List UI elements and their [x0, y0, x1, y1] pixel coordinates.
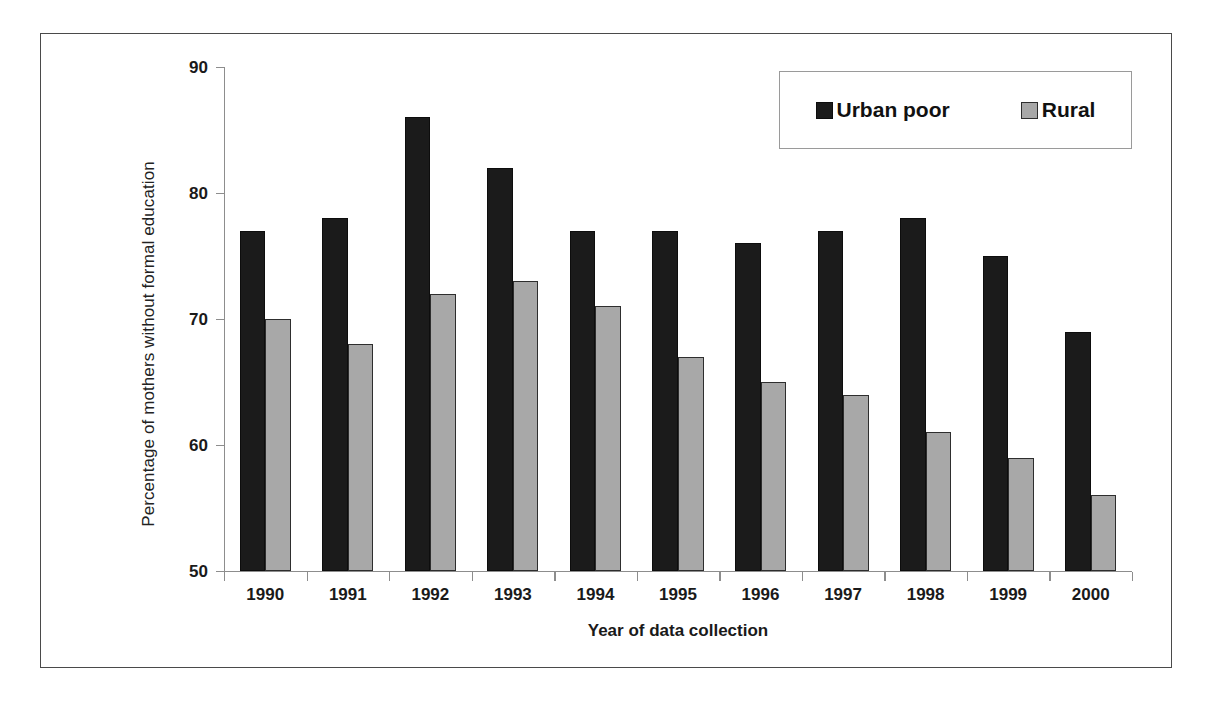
x-axis-tick-label-1991: 1991	[307, 585, 390, 605]
x-axis-tick-label-1990: 1990	[224, 585, 307, 605]
legend-entry-urban-poor[interactable]: Urban poor	[816, 98, 950, 122]
x-axis-tick-label-1999: 1999	[967, 585, 1050, 605]
bar-rural-1995	[678, 357, 704, 571]
bar-rural-1992	[430, 294, 456, 571]
x-axis-tick-mark	[1132, 572, 1133, 581]
bar-rural-1999	[1008, 458, 1034, 571]
x-axis-tick-label-1995: 1995	[637, 585, 720, 605]
bar-rural-2000	[1091, 495, 1117, 571]
x-axis-tick-label-1997: 1997	[802, 585, 885, 605]
bar-rural-1994	[595, 306, 621, 571]
x-axis-tick-label-2000: 2000	[1049, 585, 1132, 605]
bar-rural-1991	[348, 344, 374, 571]
y-axis-tick-label: 50	[148, 562, 208, 582]
x-axis-tick-mark	[307, 572, 308, 581]
bar-rural-1990	[265, 319, 291, 571]
y-axis-tick-label: 90	[148, 58, 208, 78]
x-axis-title: Year of data collection	[224, 621, 1132, 641]
bar-rural-1997	[843, 395, 869, 571]
x-axis-tick-mark	[389, 572, 390, 581]
bar-group-1991	[322, 67, 373, 571]
chart-figure-frame: Percentage of mothers without formal edu…	[40, 33, 1172, 668]
bar-urban-poor-1993	[487, 168, 513, 571]
bar-urban-poor-1994	[570, 231, 596, 571]
x-axis-tick-mark	[224, 572, 225, 581]
bar-group-1992	[405, 67, 456, 571]
chart-legend: Urban poorRural	[779, 71, 1132, 149]
x-axis-tick-mark	[637, 572, 638, 581]
bar-urban-poor-1991	[322, 218, 348, 571]
x-axis-tick-mark	[472, 572, 473, 581]
y-axis-tick-labels: 5060708090	[146, 67, 208, 572]
x-axis-tick-label-1994: 1994	[554, 585, 637, 605]
x-axis-tick-label-1992: 1992	[389, 585, 472, 605]
x-axis-tick-label-1996: 1996	[719, 585, 802, 605]
x-axis-tick-label-1998: 1998	[884, 585, 967, 605]
bar-urban-poor-1997	[818, 231, 844, 571]
y-axis-tick-label: 60	[148, 436, 208, 456]
bar-group-1990	[240, 67, 291, 571]
bar-rural-1993	[513, 281, 539, 571]
y-axis-tick-label: 70	[148, 310, 208, 330]
bar-rural-1998	[926, 432, 952, 571]
rural-swatch-icon	[1021, 102, 1038, 119]
x-axis-tick-mark	[967, 572, 968, 581]
bar-urban-poor-1996	[735, 243, 761, 571]
bar-urban-poor-1992	[405, 117, 431, 571]
bar-urban-poor-1998	[900, 218, 926, 571]
x-axis-tick-mark	[719, 572, 720, 581]
bar-rural-1996	[761, 382, 787, 571]
bar-urban-poor-2000	[1065, 332, 1091, 571]
legend-entry-rural[interactable]: Rural	[1021, 98, 1096, 122]
legend-label: Urban poor	[837, 98, 950, 122]
x-axis-tick-mark	[884, 572, 885, 581]
x-axis-tick-mark	[802, 572, 803, 581]
x-axis-tick-labels: 1990199119921993199419951996199719981999…	[224, 585, 1132, 611]
x-axis-tick-mark	[554, 572, 555, 581]
bar-urban-poor-1999	[983, 256, 1009, 571]
bar-group-1994	[570, 67, 621, 571]
x-axis-tick-mark	[1049, 572, 1050, 581]
y-axis-tick-label: 80	[148, 184, 208, 204]
x-axis-tick-label-1993: 1993	[472, 585, 555, 605]
urban-poor-swatch-icon	[816, 102, 833, 119]
x-axis-line	[224, 571, 1132, 572]
bar-group-1993	[487, 67, 538, 571]
bar-urban-poor-1995	[652, 231, 678, 571]
bar-group-1995	[652, 67, 703, 571]
bar-urban-poor-1990	[240, 231, 266, 571]
legend-label: Rural	[1042, 98, 1096, 122]
